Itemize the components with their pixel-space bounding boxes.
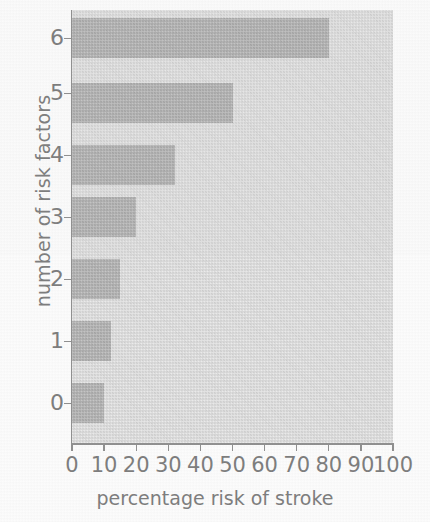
x-tick-mark [392,444,393,451]
y-tick-mark [64,155,71,156]
y-tick-mark [64,403,71,404]
bar-category-3 [72,197,136,237]
x-tick-mark [200,444,201,451]
x-tick-label: 30 [155,455,182,476]
plot-area [72,10,393,443]
x-tick-mark [168,444,169,451]
y-tick-label: 5 [42,82,64,104]
bar-category-6 [72,18,329,58]
y-tick-label: 3 [42,206,64,228]
y-tick-label: 6 [42,27,64,49]
y-tick-mark [64,217,71,218]
x-tick-label: 80 [315,455,342,476]
x-tick-mark [264,444,265,451]
x-tick-label: 100 [373,455,413,476]
y-axis-spine [71,10,72,444]
y-tick-mark [64,341,71,342]
bar-category-0 [72,383,104,423]
bar-category-4 [72,145,175,185]
y-tick-label: 4 [42,144,64,166]
y-tick-mark [64,279,71,280]
x-tick-label: 10 [91,455,118,476]
bar-category-1 [72,321,111,361]
x-tick-label: 90 [348,455,375,476]
x-tick-mark [71,444,72,451]
bar-chart-figure: number of risk factors 0 1 2 3 4 5 6 010… [0,0,430,522]
x-tick-label: 60 [251,455,278,476]
x-tick-mark [136,444,137,451]
x-tick-label: 70 [283,455,310,476]
x-tick-mark [360,444,361,451]
y-tick-mark [64,93,71,94]
y-axis-tick-labels: 0 1 2 3 4 5 6 [36,0,64,522]
y-tick-label: 0 [42,392,64,414]
x-tick-label: 0 [65,455,78,476]
y-tick-mark [64,38,71,39]
x-tick-mark [328,444,329,451]
y-tick-label: 1 [42,330,64,352]
x-axis-title: percentage risk of stroke [0,487,430,509]
x-tick-mark [232,444,233,451]
x-tick-label: 40 [187,455,214,476]
y-tick-label: 2 [42,268,64,290]
x-tick-mark [296,444,297,451]
x-tick-mark [103,444,104,451]
x-tick-label: 20 [123,455,150,476]
bar-category-2 [72,259,120,299]
bar-category-5 [72,83,233,123]
x-tick-label: 50 [219,455,246,476]
